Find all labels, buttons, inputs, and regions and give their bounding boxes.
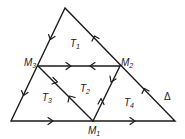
label-t1: T1 xyxy=(70,38,80,50)
label-m1: M1 xyxy=(88,125,100,137)
label-t3: T3 xyxy=(42,92,52,104)
label-t2: T2 xyxy=(80,83,90,95)
label-m3: M3 xyxy=(24,57,36,69)
label-delta: Δ xyxy=(164,91,171,102)
label-t4: T4 xyxy=(124,97,134,109)
triangle-diagram: M3 M2 M1 T1 T2 T3 T4 Δ xyxy=(0,0,185,139)
label-m2: M2 xyxy=(121,57,133,69)
edge-m2-m1 xyxy=(93,66,120,121)
